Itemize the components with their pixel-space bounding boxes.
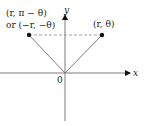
point-neg-r-neg-theta-label: or (−r, −θ): [6, 20, 55, 30]
ray-to-left-point: [29, 35, 65, 73]
x-axis-label: x: [133, 68, 138, 78]
y-axis-label: y: [63, 5, 70, 15]
point-r-pi-minus-theta-label: (r, π − θ): [6, 8, 47, 18]
point-r-pi-minus-theta: [27, 33, 31, 37]
ray-to-right-point: [65, 35, 102, 73]
origin-label: 0: [57, 75, 63, 85]
point-r-theta-label: (r, θ): [93, 19, 114, 29]
polar-symmetry-diagram: y x 0 (r, θ) (r, π − θ) or (−r, −θ): [0, 0, 150, 126]
point-r-theta: [100, 33, 104, 37]
